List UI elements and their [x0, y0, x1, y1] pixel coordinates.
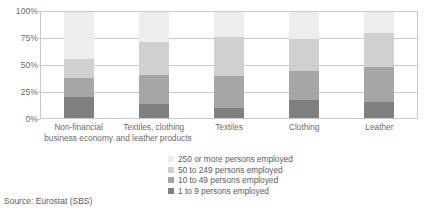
legend-label: 50 to 249 persons employed [178, 166, 283, 174]
x-axis-label-line: Leather [331, 122, 428, 133]
bar-segment[interactable] [289, 100, 319, 118]
bar-group[interactable] [214, 12, 244, 118]
x-axis-label-line: and leather products [105, 133, 202, 144]
bar-stack [289, 12, 319, 118]
y-tick-mark [36, 119, 40, 120]
y-tick-label: 75% [4, 34, 38, 43]
bar-stack [214, 12, 244, 118]
bar-segment[interactable] [214, 76, 244, 109]
legend-swatch-icon [168, 156, 174, 162]
legend-swatch-icon [168, 177, 174, 183]
legend-swatch-icon [168, 167, 174, 173]
bar-stack [64, 12, 94, 118]
bars-layer [41, 12, 417, 118]
bar-segment[interactable] [364, 12, 394, 33]
x-axis-labels: Non-financialbusiness economyTextiles, c… [41, 122, 417, 150]
stacked-bar-chart: 0%25%50%75%100% Non-financialbusiness ec… [0, 0, 430, 214]
bar-segment[interactable] [64, 12, 94, 59]
bar-segment[interactable] [289, 39, 319, 72]
y-axis: 0%25%50%75%100% [0, 0, 38, 130]
bar-segment[interactable] [139, 42, 169, 75]
y-tick-label: 50% [4, 61, 38, 70]
bar-segment[interactable] [214, 108, 244, 118]
source-note: Source: Eurostat (SBS) [4, 197, 92, 206]
legend-swatch-icon [168, 188, 174, 194]
bar-group[interactable] [139, 12, 169, 118]
legend: 250 or more persons employed50 to 249 pe… [168, 154, 293, 196]
bar-segment[interactable] [139, 12, 169, 42]
bar-segment[interactable] [364, 102, 394, 118]
bar-segment[interactable] [214, 37, 244, 75]
y-tick-label: 25% [4, 88, 38, 97]
bar-group[interactable] [289, 12, 319, 118]
bar-group[interactable] [364, 12, 394, 118]
bar-stack [364, 12, 394, 118]
legend-item[interactable]: 250 or more persons employed [168, 154, 293, 165]
legend-item[interactable]: 1 to 9 persons employed [168, 186, 293, 197]
legend-item[interactable]: 50 to 249 persons employed [168, 165, 293, 176]
bar-segment[interactable] [364, 33, 394, 67]
legend-label: 10 to 49 persons employed [178, 176, 278, 184]
bar-segment[interactable] [64, 78, 94, 97]
bar-segment[interactable] [139, 104, 169, 118]
bar-segment[interactable] [64, 59, 94, 78]
bar-segment[interactable] [139, 75, 169, 105]
legend-label: 250 or more persons employed [178, 155, 293, 163]
bar-stack [139, 12, 169, 118]
legend-item[interactable]: 10 to 49 persons employed [168, 175, 293, 186]
legend-label: 1 to 9 persons employed [178, 187, 269, 195]
bar-segment[interactable] [289, 71, 319, 100]
bar-segment[interactable] [214, 12, 244, 37]
bar-group[interactable] [64, 12, 94, 118]
bar-segment[interactable] [64, 97, 94, 118]
bar-segment[interactable] [364, 67, 394, 102]
bar-segment[interactable] [289, 12, 319, 39]
x-axis-label: Leather [331, 122, 428, 133]
y-tick-label: 100% [4, 7, 38, 16]
